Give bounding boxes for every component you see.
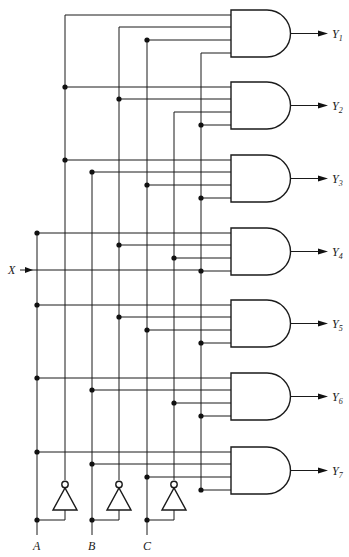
junction-dot	[34, 230, 39, 235]
and-gate-5	[231, 300, 291, 347]
inverter-input-wire	[92, 510, 119, 520]
junction-dot	[198, 195, 203, 200]
and-gate-1	[231, 10, 291, 57]
and-gate-3	[231, 155, 290, 202]
junction-dot	[198, 413, 203, 418]
junction-dot	[171, 255, 176, 260]
select-a-label: A	[32, 539, 41, 553]
output-label-y2: Y2	[332, 99, 343, 115]
select-b-label: B	[88, 539, 96, 553]
and-gate-7	[231, 447, 291, 494]
junction-dot	[89, 387, 94, 392]
inverter-input-wire	[37, 510, 65, 520]
output-label-y1: Y1	[332, 27, 343, 43]
inverter-b	[107, 488, 131, 510]
junction-dot	[198, 268, 203, 273]
junction-dot	[198, 122, 203, 127]
junction-dot	[144, 37, 149, 42]
junction-dot	[89, 461, 94, 466]
demultiplexer-diagram: XY1Y2Y3Y4Y5Y6Y7ABC	[0, 0, 349, 557]
junction-dot	[116, 96, 121, 101]
select-c-label: C	[143, 539, 152, 553]
arrow-icon	[318, 176, 328, 182]
junction-dot	[144, 327, 149, 332]
inverter-bubble	[116, 481, 122, 487]
junction-dot	[34, 449, 39, 454]
arrow-icon	[318, 321, 328, 327]
and-gate-4	[231, 228, 291, 275]
junction-dot	[144, 182, 149, 187]
output-label-y3: Y3	[332, 172, 343, 188]
output-label-y4: Y4	[332, 245, 343, 261]
junction-dot	[89, 169, 94, 174]
inverter-bubble	[171, 481, 177, 487]
junction-dot	[34, 375, 39, 380]
arrow-icon	[318, 249, 328, 255]
junction-dot	[116, 314, 121, 319]
junction-dot	[171, 400, 176, 405]
arrow-icon	[318, 468, 328, 474]
arrow-icon	[318, 31, 328, 37]
output-label-y5: Y5	[332, 317, 343, 333]
output-label-y7: Y7	[332, 464, 344, 480]
output-label-y6: Y6	[332, 390, 343, 406]
junction-dot	[116, 242, 121, 247]
inverter-c	[162, 488, 186, 510]
junction-dot	[198, 340, 203, 345]
and-gate-6	[231, 373, 290, 420]
inverter-input-wire	[147, 510, 174, 520]
junction-dot	[198, 487, 203, 492]
inverter-a	[53, 488, 77, 510]
arrow-icon	[318, 103, 328, 109]
junction-dot	[34, 302, 39, 307]
junction-dot	[62, 84, 67, 89]
junction-dot	[62, 157, 67, 162]
and-gate-2	[231, 82, 291, 129]
arrow-icon	[318, 394, 328, 400]
junction-dot	[144, 474, 149, 479]
arrow-icon	[25, 267, 33, 273]
data-input-label: X	[7, 263, 16, 277]
inverter-bubble	[62, 481, 68, 487]
